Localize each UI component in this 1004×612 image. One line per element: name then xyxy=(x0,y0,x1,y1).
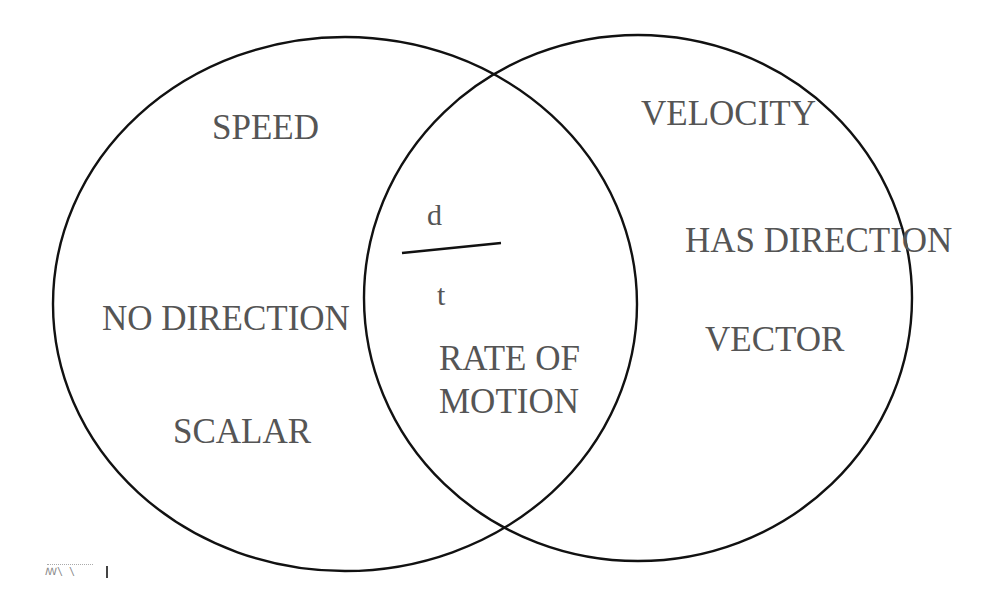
artifact-bar xyxy=(106,566,108,578)
formula-denominator-t: t xyxy=(437,280,445,310)
speed-scalar-label: SCALAR xyxy=(173,414,311,449)
velocity-vector-label: VECTOR xyxy=(705,322,844,357)
intersection-motion-label: MOTION xyxy=(439,384,579,419)
venn-diagram: SPEED NO DIRECTION SCALAR VELOCITY HAS D… xyxy=(0,0,1004,612)
dotted-line xyxy=(47,564,93,565)
scan-artifact: ꟿ\ \ xyxy=(45,564,95,580)
formula-numerator-d: d xyxy=(427,200,442,230)
intersection-rate-of-label: RATE OF xyxy=(439,341,580,376)
velocity-title: VELOCITY xyxy=(641,96,816,131)
speed-title: SPEED xyxy=(212,110,319,145)
velocity-has-direction-label: HAS DIRECTION xyxy=(685,223,952,258)
speed-no-direction-label: NO DIRECTION xyxy=(102,301,350,336)
fraction-bar xyxy=(402,243,501,253)
artifact-text: ꟿ\ \ xyxy=(45,566,75,577)
